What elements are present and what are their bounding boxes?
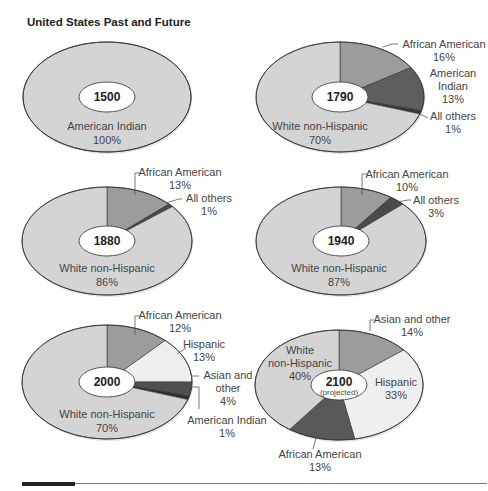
pie-2100: 2100(projected)Asian and other14%Whiteno… <box>255 313 451 473</box>
pie-1940: 1940African American10%All others3%White… <box>256 168 459 297</box>
slice-label: All others <box>430 110 476 122</box>
slice-label: 70% <box>309 134 331 146</box>
slice-label: 4% <box>220 395 236 407</box>
slice-label: White non-Hispanic <box>59 262 155 274</box>
slice-label: 86% <box>96 276 118 288</box>
slice-label: African American <box>138 309 221 321</box>
pie-year-label: 1790 <box>327 90 354 104</box>
pie-1500: 1500American Indian100% <box>23 42 192 154</box>
slice-label: 87% <box>328 276 350 288</box>
slice-label: 13% <box>442 93 464 105</box>
slice-label: 1% <box>201 205 217 217</box>
slice-label: 13% <box>169 179 191 191</box>
slice-label: All others <box>413 194 459 206</box>
pie-year-label: 2100 <box>326 375 353 389</box>
slice-label: other <box>215 382 240 394</box>
slice-label: Hispanic <box>183 338 226 350</box>
slice-label: White <box>286 344 314 356</box>
slice-label: White non-Hispanic <box>272 120 368 132</box>
slice-label: 33% <box>385 389 407 401</box>
leader-line <box>397 200 411 202</box>
footer-accent-bar <box>22 482 75 486</box>
slice-label: 1% <box>445 123 461 135</box>
slice-label: African American <box>138 166 221 178</box>
leader-line <box>420 114 428 118</box>
leader-line <box>383 44 398 47</box>
pie-2000: 2000African American12%Hispanic13%Asian … <box>22 309 267 441</box>
slice-label: All others <box>186 192 232 204</box>
slice-label: White non-Hispanic <box>59 408 155 420</box>
slice-label: American <box>430 67 476 79</box>
slice-label: African American <box>402 38 485 50</box>
slice-label: 3% <box>428 207 444 219</box>
leader-line <box>166 199 182 203</box>
slice-label: 13% <box>193 351 215 363</box>
slice-label: 100% <box>93 134 121 146</box>
slice-label: 10% <box>396 181 418 193</box>
slice-label: Hispanic <box>375 376 418 388</box>
pie-1790: 1790African American16%AmericanIndian13%… <box>256 38 486 154</box>
pie-year-label: 1940 <box>328 234 355 248</box>
slice-label: 13% <box>309 461 331 473</box>
pie-charts-canvas: 1500American Indian100%1790African Ameri… <box>0 0 488 491</box>
slice-label: American Indian <box>187 414 267 426</box>
slice-label: African American <box>365 168 448 180</box>
slice-label: 12% <box>169 322 191 334</box>
slice-label: non-Hispanic <box>268 357 333 369</box>
footer-rule <box>22 483 487 484</box>
pie-year-label: 2000 <box>94 375 121 389</box>
slice-label: Indian <box>438 80 468 92</box>
slice-label: 70% <box>96 422 118 434</box>
pie-year-label: 1500 <box>94 90 121 104</box>
slice-label: American Indian <box>67 120 147 132</box>
slice-label: Asian and other <box>373 313 450 325</box>
pie-subtitle: (projected) <box>320 388 359 397</box>
slice-label: 16% <box>433 51 455 63</box>
slice-label: 1% <box>219 427 235 439</box>
slice-label: 40% <box>289 370 311 382</box>
slice-label: African American <box>278 448 361 460</box>
slice-label: 14% <box>401 326 423 338</box>
slice-label: White non-Hispanic <box>291 262 387 274</box>
pie-1880: 1880African American13%All others1%White… <box>22 166 232 297</box>
pie-year-label: 1880 <box>94 234 121 248</box>
slice-label: Asian and <box>204 369 253 381</box>
